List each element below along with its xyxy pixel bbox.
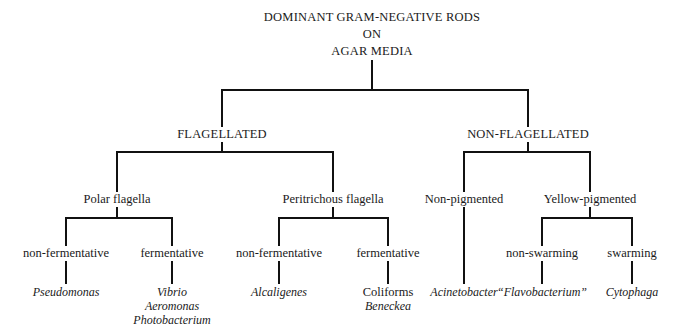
- leaf-cytophaga: Cytophaga: [604, 285, 661, 299]
- title-line-2: ON: [264, 26, 480, 43]
- node-polar-fermentative: fermentative: [138, 246, 205, 261]
- node-flagellated: FLAGELLATED: [175, 127, 269, 142]
- node-non-pigmented: Non-pigmented: [423, 192, 505, 207]
- title-line-1: DOMINANT GRAM-NEGATIVE RODS: [264, 9, 480, 26]
- title-line-3: AGAR MEDIA: [264, 43, 480, 60]
- node-swarming: swarming: [605, 246, 658, 261]
- leaf-vibrio-group: Vibrio Aeromonas Photobacterium: [131, 285, 212, 327]
- node-peritrichous-non-fermentative: non-fermentative: [234, 246, 324, 261]
- node-polar-non-fermentative: non-fermentative: [21, 246, 111, 261]
- node-peritrichous-fermentative: fermentative: [354, 246, 421, 261]
- leaf-acinetobacter: Acinetobacter: [428, 285, 499, 299]
- leaf-alcaligenes: Alcaligenes: [249, 285, 309, 299]
- node-non-flagellated: NON-FLAGELLATED: [465, 127, 591, 142]
- leaf-coliforms-group: Coliforms Beneckea: [361, 285, 416, 313]
- diagram-title: DOMINANT GRAM-NEGATIVE RODS ON AGAR MEDI…: [262, 9, 482, 60]
- node-yellow-pigmented: Yellow-pigmented: [542, 192, 638, 207]
- leaf-flavobacterium: “Flavobacterium”: [495, 285, 589, 299]
- node-polar-flagella: Polar flagella: [82, 192, 153, 207]
- leaf-pseudomonas: Pseudomonas: [31, 285, 102, 299]
- node-peritrichous-flagella: Peritrichous flagella: [280, 192, 385, 207]
- node-non-swarming: non-swarming: [504, 246, 580, 261]
